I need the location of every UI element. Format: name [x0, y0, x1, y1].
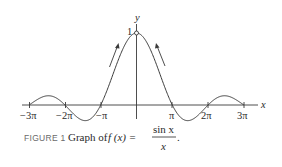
caption-text: Graph of	[68, 131, 108, 143]
caption-period: .	[177, 131, 180, 143]
caption-function-lhs: f (x) =	[108, 131, 136, 144]
sinc-graph: y x 1 −3π −2π −π π 2π 3π FIGURE 1 Graph …	[0, 0, 282, 167]
hole-point	[135, 31, 139, 35]
x-tick-label-3pi: 3π	[237, 110, 248, 121]
x-tick-label-neg3pi: −3π	[20, 110, 37, 121]
x-tick-label-pi: π	[169, 110, 175, 121]
x-tick-label-neg2pi: −2π	[56, 110, 73, 121]
left-approach-arrow-icon	[110, 43, 120, 67]
caption-numerator: sin x	[153, 123, 175, 135]
figure-number: FIGURE 1	[24, 133, 66, 143]
y-tick-1: 1	[127, 26, 132, 37]
x-tick-label-negpi: −π	[96, 110, 108, 121]
y-axis-label: y	[134, 12, 140, 23]
x-tick-label-2pi: 2π	[201, 110, 212, 121]
caption-denominator: x	[160, 140, 166, 152]
x-axis-label: x	[260, 99, 266, 110]
right-approach-arrow-icon	[155, 43, 165, 66]
